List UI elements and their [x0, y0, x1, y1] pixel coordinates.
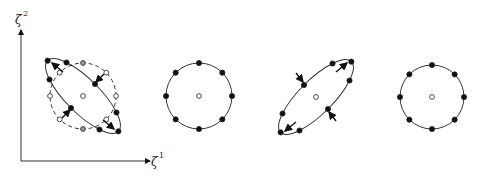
- displacement-arrow: [96, 74, 104, 82]
- reference-point: [48, 94, 53, 99]
- panel-4: [397, 62, 466, 131]
- material-point: [325, 106, 330, 111]
- center-point: [197, 94, 202, 99]
- material-point: [173, 70, 178, 75]
- panel-2: [163, 60, 234, 131]
- material-point: [407, 117, 412, 122]
- reference-point: [114, 94, 119, 99]
- deformed-point: [64, 60, 69, 65]
- panel-3: [269, 50, 364, 145]
- material-point: [407, 72, 412, 77]
- y-axis-label-superscript: 2: [23, 9, 28, 18]
- deformed-point: [97, 127, 102, 132]
- material-point: [220, 70, 225, 75]
- material-point: [173, 117, 178, 122]
- material-point: [229, 93, 234, 98]
- reference-point: [57, 117, 62, 122]
- material-point: [280, 111, 285, 116]
- deformed-point: [116, 129, 121, 134]
- material-point: [163, 93, 168, 98]
- deformed-point: [47, 77, 52, 82]
- x-axis-label-superscript: 1: [159, 151, 164, 160]
- reference-point: [81, 127, 86, 132]
- reference-point: [104, 70, 109, 75]
- displacement-arrow: [103, 120, 114, 129]
- material-point: [196, 60, 201, 65]
- material-point: [196, 126, 201, 131]
- material-point: [349, 59, 354, 64]
- center-point: [430, 95, 435, 100]
- material-point: [429, 62, 434, 67]
- material-point: [347, 78, 352, 83]
- displacement-arrow: [62, 110, 70, 118]
- compression-arrow: [296, 73, 303, 82]
- diagram-canvas: ζ 2 ζ 1: [0, 0, 482, 176]
- x-axis-label: ζ: [151, 155, 159, 169]
- deformed-point: [45, 58, 50, 63]
- material-point: [330, 61, 335, 66]
- material-point: [301, 82, 306, 87]
- material-point: [220, 117, 225, 122]
- deformed-point: [92, 81, 97, 86]
- material-point: [452, 117, 457, 122]
- material-point: [297, 128, 302, 133]
- reference-point: [81, 61, 86, 66]
- axes: ζ 2 ζ 1: [15, 9, 164, 169]
- deformed-point: [114, 110, 119, 115]
- material-point: [429, 126, 434, 131]
- material-point: [452, 72, 457, 77]
- center-point: [81, 94, 86, 99]
- material-point: [397, 94, 402, 99]
- tension-arrow: [285, 122, 296, 131]
- center-point: [314, 95, 319, 100]
- tension-arrow: [336, 63, 347, 72]
- figure: ζ 2 ζ 1: [0, 0, 482, 176]
- panel-1: [36, 49, 131, 144]
- material-point: [278, 130, 283, 135]
- compression-arrow: [329, 112, 336, 121]
- y-axis-label: ζ: [15, 13, 23, 27]
- deformed-point: [68, 105, 73, 110]
- displacement-arrow: [52, 63, 63, 72]
- material-point: [461, 94, 466, 99]
